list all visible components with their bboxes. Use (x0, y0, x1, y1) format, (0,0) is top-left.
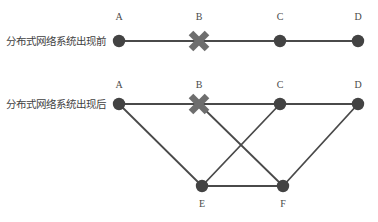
node-label-a-before: A (115, 11, 123, 22)
node-a-after (113, 98, 125, 110)
node-label-d-after: D (354, 79, 361, 90)
graph-canvas: 分布式网络系统出现前 A B C D 分布式网络系统出现后 A (0, 0, 378, 222)
node-label-f-after: F (280, 198, 286, 209)
edge-c-e-after (202, 104, 280, 186)
node-c-after (274, 98, 286, 110)
edge-a-e-after (119, 104, 202, 186)
network-diagram: 分布式网络系统出现前 A B C D 分布式网络系统出现后 A (0, 0, 378, 222)
node-label-c-before: C (277, 11, 284, 22)
node-label-b-after: B (196, 79, 203, 90)
node-a-before (113, 35, 125, 47)
node-label-a-after: A (115, 79, 123, 90)
edge-d-f-after (283, 104, 358, 186)
row-label-after: 分布式网络系统出现后 (6, 98, 106, 110)
node-d-after (352, 98, 364, 110)
node-f-after (277, 180, 289, 192)
node-e-after (196, 180, 208, 192)
node-label-c-after: C (277, 79, 284, 90)
row-after: 分布式网络系统出现后 A B C D E F (6, 79, 364, 209)
node-d-before (352, 35, 364, 47)
row-label-before: 分布式网络系统出现前 (6, 35, 106, 47)
node-c-before (274, 35, 286, 47)
node-label-d-before: D (354, 11, 361, 22)
node-label-e-after: E (199, 198, 205, 209)
node-label-b-before: B (196, 11, 203, 22)
row-before: 分布式网络系统出现前 A B C D (6, 11, 364, 49)
